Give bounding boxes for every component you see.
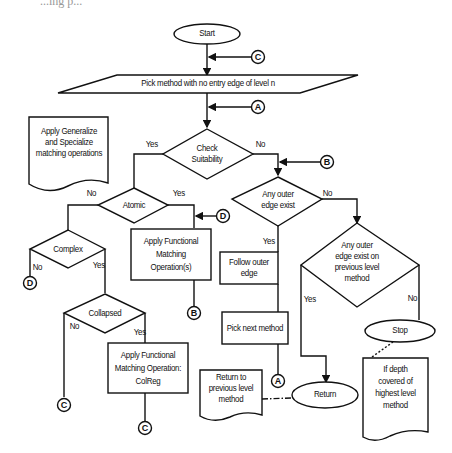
pick-method-label: Pick method with no entry edge of level … <box>120 78 296 89</box>
connector-a-bottom: A <box>271 374 285 388</box>
connector-d-mid: D <box>216 209 230 223</box>
any-outer-prev-label: Any outer edge exist on previous level m… <box>325 240 389 284</box>
check-no-label: No <box>256 139 266 149</box>
return-label: Return <box>306 389 345 400</box>
return-note-label: Return to previous level method <box>200 372 262 405</box>
pick-next-label: Pick next method <box>226 323 284 334</box>
collapsed-yes-label: Yes <box>134 327 146 337</box>
any-outer-no-label: No <box>323 188 333 198</box>
connector-b-right: B <box>320 155 334 169</box>
any-outer-edge-label: Any outer edge exist <box>250 189 306 211</box>
connector-b-bottom: B <box>187 306 201 320</box>
check-yes-label: Yes <box>146 139 158 149</box>
start-label: Start <box>189 28 224 39</box>
prev-no-label: No <box>408 293 418 303</box>
atomic-no-label: No <box>87 188 97 198</box>
connector-d-left: D <box>23 276 37 290</box>
collapsed-no-label: No <box>70 321 80 331</box>
stop-label: Stop <box>382 325 417 336</box>
depth-note-label: If depth covered of highest level method <box>363 363 428 411</box>
connector-a-top: A <box>251 100 265 114</box>
connector-c-top: C <box>251 50 265 64</box>
complex-label: Complex <box>49 244 88 255</box>
connector-c-left: C <box>57 398 71 412</box>
check-suitability-label: Check Suitability <box>181 143 233 165</box>
apply-colreg-label: Apply Functional Matching Operation: Col… <box>108 349 188 388</box>
complex-yes-label: Yes <box>93 260 105 270</box>
atomic-yes-label: Yes <box>173 188 185 198</box>
any-outer-yes-label: Yes <box>263 236 275 246</box>
collapsed-label: Collapsed <box>85 308 125 319</box>
apply-functional-label: Apply Functional Matching Operation(s) <box>131 235 211 274</box>
connector-c-bottom: C <box>138 421 152 435</box>
complex-no-label: No <box>33 262 43 272</box>
prev-yes-label: Yes <box>304 294 316 304</box>
atomic-label: Atomic <box>116 200 153 211</box>
follow-outer-label: Follow outer edge <box>220 257 278 279</box>
generalize-note-label: Apply Generalize and Specialize matching… <box>29 126 109 159</box>
